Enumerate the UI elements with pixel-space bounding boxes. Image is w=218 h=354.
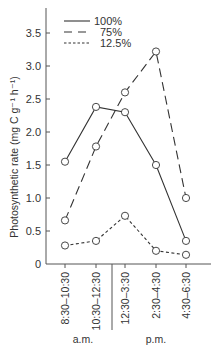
data-point-marker <box>182 237 189 244</box>
y-tick-label: 0 <box>35 258 41 270</box>
y-tick-label: 1.0 <box>26 192 41 204</box>
data-point-marker <box>182 251 189 258</box>
series-line-100 <box>65 107 186 241</box>
legend: 100%75%12.5% <box>64 15 131 49</box>
data-point-marker <box>61 217 68 224</box>
series-line-125 <box>65 216 186 255</box>
y-tick-label: 0.5 <box>26 225 41 237</box>
y-axis: 00.51.01.52.02.53.03.5 <box>26 8 50 270</box>
x-group-label: p.m. <box>146 333 166 345</box>
data-point-marker <box>61 158 68 165</box>
data-point-marker <box>92 103 99 110</box>
data-point-marker <box>92 143 99 150</box>
x-tick-label: 2:30–4:30 <box>150 272 162 319</box>
data-point-marker <box>121 89 128 96</box>
legend-label: 12.5% <box>100 37 131 49</box>
data-point-marker <box>61 242 68 249</box>
x-tick-label: 10:30–12:30 <box>90 272 102 331</box>
data-point-marker <box>121 212 128 219</box>
x-tick-label: 12:30–3:30 <box>119 272 131 325</box>
data-point-marker <box>182 194 189 201</box>
data-point-marker <box>152 161 159 168</box>
data-point-marker <box>152 247 159 254</box>
x-axis: 8:30–10:3010:30–12:3012:30–3:302:30–4:30… <box>46 264 211 345</box>
x-tick-label: 8:30–10:30 <box>59 272 71 325</box>
y-tick-label: 2.5 <box>26 93 41 105</box>
data-point-marker <box>92 237 99 244</box>
y-tick-label: 3.0 <box>26 60 41 72</box>
data-point-marker <box>121 109 128 116</box>
photosynthetic-rate-chart: 00.51.01.52.02.53.03.5 8:30–10:3010:30–1… <box>0 0 218 354</box>
data-point-marker <box>152 48 159 55</box>
y-tick-label: 1.5 <box>26 159 41 171</box>
x-tick-label: 4:30–6:30 <box>180 272 192 319</box>
series-layer <box>61 48 189 259</box>
y-axis-label: Photosynthetic rate (mg C g⁻¹ h⁻¹) <box>8 76 20 237</box>
y-tick-label: 3.5 <box>26 27 41 39</box>
y-tick-label: 2.0 <box>26 126 41 138</box>
x-group-label: a.m. <box>73 333 93 345</box>
